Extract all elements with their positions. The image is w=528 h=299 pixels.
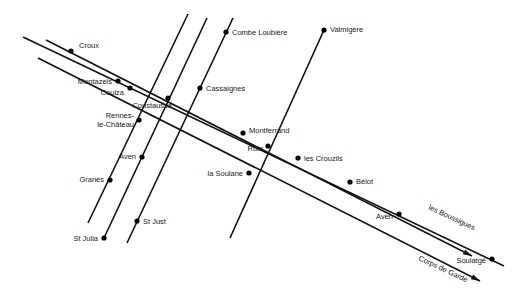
town-label: Couiza [101, 88, 125, 97]
town-marker: Couiza [101, 85, 133, 97]
town-label: Montferrand [249, 126, 289, 135]
town-dot-icon [246, 170, 251, 175]
town-dot-icon [396, 211, 401, 216]
town-label: Soulatgé [456, 256, 486, 265]
town-dot-icon [107, 177, 112, 182]
town-label: Granès [79, 175, 104, 184]
town-label: St Julia [73, 234, 98, 243]
town-label: Montazels [78, 77, 112, 86]
town-dot-icon [265, 143, 270, 148]
town-marker: Combe Loubière [223, 28, 287, 37]
town-dot-icon [321, 27, 326, 32]
town-marker: la Soulane [208, 169, 252, 178]
arrow-head-icon [471, 275, 480, 281]
town-label: Combe Loubière [232, 28, 287, 37]
town-dot-icon [489, 256, 494, 261]
town-markers: CrouxMontazelsCouizaCoustaussaRennes-le-… [68, 25, 494, 265]
town-label: Valmigère [330, 25, 363, 34]
town-dot-icon [115, 78, 120, 83]
town-label: Aven [119, 152, 136, 161]
town-dot-icon [197, 85, 202, 90]
town-marker: Croux [68, 41, 99, 54]
town-dot-icon [127, 85, 132, 90]
town-marker: Valmigère [321, 25, 363, 34]
town-dot-icon [101, 235, 106, 240]
town-marker: Montazels [78, 77, 121, 86]
town-dot-icon [240, 130, 245, 135]
town-label: Croux [79, 41, 99, 50]
town-dot-icon [139, 154, 144, 159]
town-dot-icon [347, 179, 352, 184]
town-label: Ruin [248, 144, 263, 153]
town-label: les Crouzils [304, 154, 343, 163]
town-label: Rennes- [106, 111, 135, 120]
town-label: le-Château [97, 120, 134, 129]
town-label: Aven [376, 212, 393, 221]
town-label: Cassaignes [206, 84, 245, 93]
town-label: Coustaussa [132, 101, 172, 110]
direction-label: les Boussigues [427, 203, 477, 233]
road-st-just [127, 18, 233, 243]
town-marker: Montferrand [240, 126, 289, 136]
town-label: Bélot [356, 177, 374, 186]
road-montazels-soulatge [23, 37, 504, 266]
town-dot-icon [136, 117, 141, 122]
town-marker: St Julia [73, 234, 106, 243]
town-marker: Soulatgé [456, 256, 494, 265]
town-marker: Cassaignes [197, 84, 245, 93]
town-marker: les Crouzils [295, 154, 343, 163]
town-dot-icon [68, 48, 73, 53]
town-dot-icon [134, 218, 139, 223]
town-label: St Just [143, 217, 167, 226]
town-marker: Coustaussa [132, 95, 172, 110]
town-label: la Soulane [208, 169, 243, 178]
town-marker: Aven [376, 211, 402, 221]
road-map: CrouxMontazelsCouizaCoustaussaRennes-le-… [0, 0, 528, 299]
town-dot-icon [223, 29, 228, 34]
town-dot-icon [295, 155, 300, 160]
town-marker: Bélot [347, 177, 374, 186]
town-marker: le-Château [97, 120, 134, 129]
town-dot-icon [165, 95, 170, 100]
